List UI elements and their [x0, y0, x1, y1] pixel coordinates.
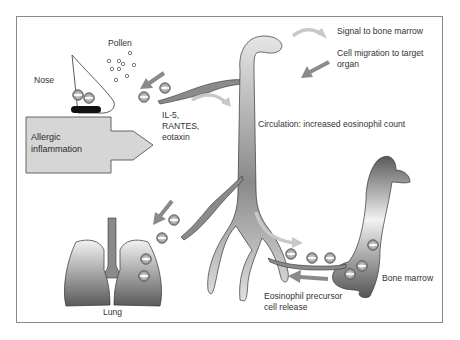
release-line-2: cell release [264, 302, 342, 313]
legend-migration-line-2: organ [337, 59, 423, 70]
eosinophil-cell [169, 215, 180, 226]
legend-migration-label: Cell migration to target organ [337, 48, 423, 70]
nose-illustration [71, 55, 114, 113]
legend-curved-arrow-icon [293, 28, 327, 39]
release-line-1: Eosinophil precursor [264, 291, 342, 302]
legend-signal-label: Signal to bone marrow [337, 26, 423, 37]
nose-label: Nose [34, 75, 54, 86]
signal-arrow [192, 95, 226, 103]
allergic-line-2: inflammation [31, 143, 82, 155]
allergic-line-1: Allergic [31, 131, 82, 143]
cytokine-il5: IL-5, [162, 110, 199, 121]
circulation-label: Circulation: increased eosinophil count [258, 119, 405, 130]
pollen-label: Pollen [108, 38, 132, 49]
eosinophil-cell [307, 253, 318, 264]
legend-straight-arrow-icon [301, 62, 329, 78]
cytokines-label: IL-5, RANTES, eotaxin [162, 110, 199, 143]
lung-illustration [64, 218, 161, 306]
release-arrow [288, 270, 328, 283]
release-label: Eosinophil precursor cell release [264, 291, 342, 313]
eosinophil-cell [157, 233, 168, 244]
pollen-particles [107, 51, 135, 81]
eosinophil-cell [325, 253, 336, 264]
cytokine-eotaxin: eotaxin [162, 132, 199, 143]
cytokine-rantes: RANTES, [162, 121, 199, 132]
eosinophil-cell [139, 92, 150, 103]
legend-migration-line-1: Cell migration to target [337, 48, 423, 59]
allergic-inflammation-label: Allergic inflammation [31, 131, 82, 155]
eosinophil-cell [160, 83, 171, 94]
lung-label: Lung [103, 307, 122, 318]
bone-marrow-label: Bone marrow [382, 273, 433, 284]
lung-vessel-branch [181, 176, 243, 240]
eosinophil-cell [286, 249, 297, 260]
